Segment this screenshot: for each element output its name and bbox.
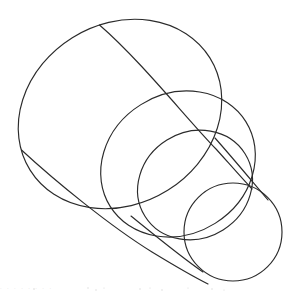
- page-foot-artifact: · · · · · · · ·: [0, 281, 296, 295]
- drawing-canvas: · · · · · · · ·: [0, 0, 296, 295]
- paper-background: [0, 0, 296, 295]
- stepped-cone-figure: [0, 0, 296, 295]
